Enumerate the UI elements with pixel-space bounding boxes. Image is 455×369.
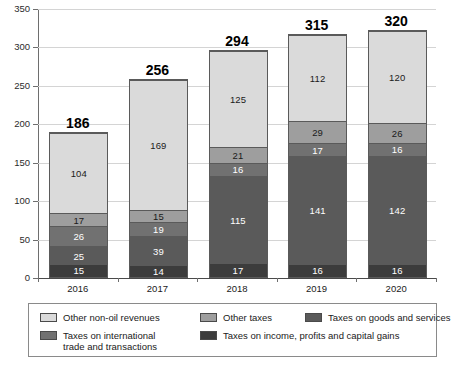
bar-2020[interactable]: 161421626120 [368,30,427,278]
segment-value-label: 169 [150,141,166,151]
legend-swatch-icon [200,331,217,340]
y-tick-label: 350 [2,4,30,14]
y-tick-label: 200 [2,119,30,129]
legend-item[interactable]: Taxes on international trade and transac… [40,330,188,352]
segment-value-label: 15 [73,266,84,276]
segment-value-label: 16 [392,145,403,155]
bar-2018[interactable]: 171151621125 [209,50,268,278]
segment-value-label: 26 [73,232,84,242]
plot-area: 1525261710418614391915169256171151621125… [38,9,436,278]
legend-swatch-icon [40,331,57,340]
segment-value-label: 29 [312,128,323,138]
segment-value-label: 16 [392,266,403,276]
bar-total-label: 186 [49,116,106,130]
y-tick-label: 250 [2,81,30,91]
x-tick-label-2018: 2018 [197,284,277,294]
bar-total-label: 315 [288,18,345,32]
segment-value-label: 21 [233,151,244,161]
legend-item[interactable]: Other non-oil revenues [40,312,188,323]
bar-segment[interactable]: 29 [289,121,346,143]
bar-segment[interactable]: 17 [210,264,267,277]
segment-value-label: 19 [153,225,164,235]
segment-value-label: 16 [233,165,244,175]
bar-segment[interactable]: 169 [130,80,187,210]
segment-value-label: 142 [389,206,405,216]
x-tick-mark [197,278,198,282]
segment-value-label: 141 [310,206,326,216]
bar-segment[interactable]: 25 [50,246,107,265]
y-tick-label: 0 [2,273,30,283]
x-tick-mark [436,278,437,282]
bar-total-label: 294 [209,34,266,48]
bar-segment[interactable]: 15 [50,265,107,277]
x-tick-label-2020: 2020 [356,284,436,294]
y-tick-label: 100 [2,196,30,206]
x-tick-label-2017: 2017 [118,284,198,294]
legend-row-bottom: Taxes on international trade and transac… [40,330,452,352]
legend-label: Taxes on income, profits and capital gai… [223,330,399,341]
segment-value-label: 17 [312,146,323,156]
x-tick-label-2016: 2016 [38,284,118,294]
x-tick-label-2019: 2019 [277,284,357,294]
x-tick-mark [277,278,278,282]
bar-segment[interactable]: 115 [210,176,267,264]
segment-value-label: 26 [392,129,403,139]
bar-segment[interactable]: 26 [50,226,107,246]
bar-segment[interactable]: 141 [289,156,346,264]
x-tick-mark [38,278,39,282]
bar-segment[interactable]: 104 [50,133,107,213]
bar-segment[interactable]: 16 [369,265,426,277]
legend-label: Taxes on international trade and transac… [63,330,157,352]
segment-value-label: 115 [230,216,245,226]
legend-item[interactable]: Taxes on income, profits and capital gai… [200,330,440,341]
segment-value-label: 17 [233,266,244,276]
legend-swatch-icon [200,313,217,322]
segment-value-label: 25 [73,252,84,262]
y-tick-label: 50 [2,235,30,245]
bar-2016[interactable]: 15252617104 [49,132,108,278]
segment-value-label: 39 [153,247,164,257]
legend-label: Other non-oil revenues [63,312,160,323]
bar-segment[interactable]: 16 [289,265,346,277]
segment-value-label: 16 [312,266,323,276]
y-tick-label: 150 [2,158,30,168]
bar-segment[interactable]: 39 [130,236,187,266]
legend-label: Other taxes [223,312,272,323]
bar-segment[interactable]: 120 [369,31,426,123]
bar-segment[interactable]: 16 [369,143,426,155]
bar-total-label: 320 [368,14,425,28]
segment-value-label: 104 [71,169,87,179]
bar-segment[interactable]: 17 [50,213,107,226]
legend-row-top: Other non-oil revenuesOther taxesTaxes o… [40,312,455,323]
segment-value-label: 14 [153,267,164,277]
bar-segment[interactable]: 112 [289,35,346,121]
segment-value-label: 15 [153,212,164,222]
segment-value-label: 112 [310,74,325,84]
segment-value-label: 17 [73,216,84,226]
bar-segment[interactable]: 14 [130,266,187,277]
x-tick-mark [356,278,357,282]
bar-segment[interactable]: 21 [210,147,267,163]
segment-value-label: 120 [389,73,405,83]
legend-swatch-icon [305,313,322,322]
segment-value-label: 125 [230,95,246,105]
bar-2017[interactable]: 14391915169 [129,79,188,278]
y-tick-label: 300 [2,42,30,52]
legend-item[interactable]: Taxes on goods and services [305,312,455,323]
bar-segment[interactable]: 15 [130,210,187,222]
bar-segment[interactable]: 125 [210,51,267,147]
legend-item[interactable]: Other taxes [200,312,293,323]
bar-total-label: 256 [129,63,186,77]
legend-label: Taxes on goods and services [328,312,451,323]
bar-segment[interactable]: 142 [369,156,426,265]
bar-segment[interactable]: 16 [210,163,267,175]
legend: Other non-oil revenuesOther taxesTaxes o… [28,303,437,357]
bar-segment[interactable]: 19 [130,222,187,237]
legend-swatch-icon [40,313,57,322]
x-axis-line [38,278,437,279]
bar-segment[interactable]: 26 [369,123,426,143]
bar-2019[interactable]: 161411729112 [288,34,347,278]
bar-segment[interactable]: 17 [289,143,346,156]
x-tick-mark [118,278,119,282]
